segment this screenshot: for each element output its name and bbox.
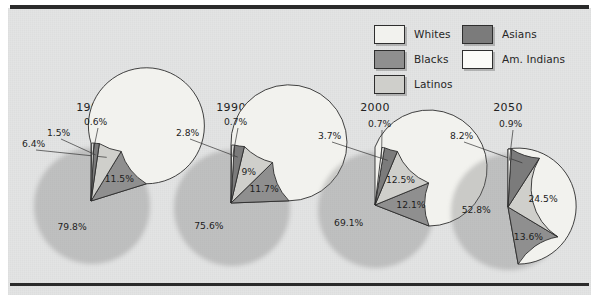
slice-label-am-indians: 0.9% [499, 118, 523, 129]
pie-svg-2050: 52.8%13.6%24.5%8.2%0.9% [0, 0, 599, 303]
slice-label-whites: 52.8% [462, 204, 491, 215]
slice-label-latinos: 24.5% [528, 193, 557, 204]
chart-screenshot: Whites Blacks Latinos Asians Am. Indians… [0, 0, 599, 303]
slice-label-blacks: 13.6% [514, 231, 543, 242]
slice-label-asians: 8.2% [450, 130, 474, 141]
pie-chart-2050: 205052.8%13.6%24.5%8.2%0.9% [0, 0, 599, 303]
